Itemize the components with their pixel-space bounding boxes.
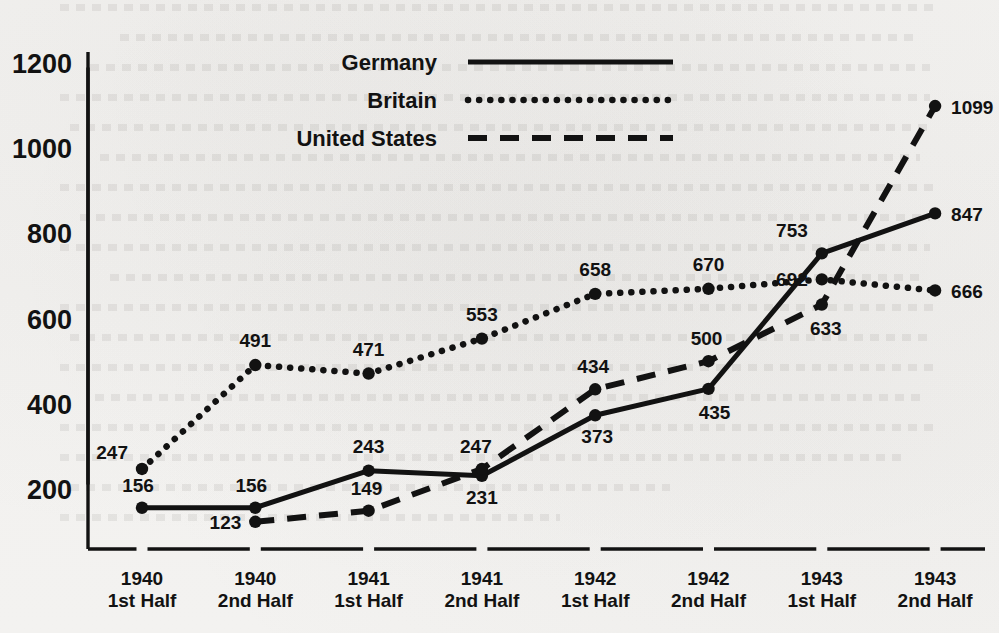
x-axis-tick-label: 19431st Half [787,568,856,611]
data-point [362,367,374,379]
data-point [702,383,714,395]
data-point [136,502,148,514]
data-point [929,207,941,219]
data-point-label: 753 [776,220,808,241]
svg-text:1942: 1942 [574,568,616,589]
data-point-label: 149 [351,478,383,499]
data-point-label: 231 [466,487,498,508]
x-axis-tick-label: 19421st Half [561,568,630,611]
data-point [476,332,488,344]
line-chart: 2004006008001000120019401st Half19402nd … [0,0,999,633]
data-point-label: 434 [577,356,609,377]
y-axis-tick-label: 1200 [12,49,72,79]
data-point-label: 156 [122,475,154,496]
data-point-label: 373 [581,426,613,447]
series-line [142,213,935,507]
x-axis-tick-label: 19402nd Half [218,568,294,611]
data-point [589,409,601,421]
data-point-label: 247 [460,436,492,457]
legend-label: Germany [342,50,438,75]
x-axis-tick-label: 19401st Half [108,568,177,611]
svg-text:1941: 1941 [461,568,504,589]
data-point [816,247,828,259]
svg-text:1942: 1942 [687,568,729,589]
data-point [589,383,601,395]
data-point [249,502,261,514]
data-point [929,284,941,296]
data-point-label: 156 [235,475,267,496]
series-britain: 247491471553658670692666 [96,254,983,475]
svg-text:2nd Half: 2nd Half [671,590,747,611]
data-point-label: 847 [951,204,983,225]
data-point [816,273,828,285]
svg-text:1st Half: 1st Half [334,590,403,611]
legend-label: Britain [367,88,437,113]
svg-text:1st Half: 1st Half [108,590,177,611]
data-point-label: 658 [579,259,611,280]
x-axis-tick-label: 19432nd Half [898,568,974,611]
svg-text:1943: 1943 [914,568,956,589]
svg-text:1941: 1941 [347,568,390,589]
y-axis-tick-label: 200 [27,475,72,505]
y-axis-tick-label: 800 [27,219,72,249]
series-line [255,106,935,522]
data-point-label: 670 [693,254,725,275]
legend-label: United States [296,126,437,151]
data-point-label: 666 [951,281,983,302]
svg-text:1st Half: 1st Half [787,590,856,611]
data-point [589,288,601,300]
data-point-label: 500 [691,328,723,349]
data-point [816,298,828,310]
data-point-label: 435 [699,402,731,423]
data-point [249,516,261,528]
data-point [702,355,714,367]
data-point-label: 553 [466,304,498,325]
svg-text:1943: 1943 [801,568,843,589]
y-axis-tick-label: 1000 [12,134,72,164]
data-point-label: 692 [776,269,808,290]
legend-item-united-states[interactable]: United States [296,126,673,151]
x-axis-tick-label: 19411st Half [334,568,403,611]
series-united-states: 1231492474345006331099 [210,97,994,533]
data-point-label: 123 [210,512,242,533]
data-point-label: 243 [353,436,385,457]
svg-text:1st Half: 1st Half [561,590,630,611]
legend-item-germany[interactable]: Germany [342,50,673,75]
y-axis-tick-label: 600 [27,305,72,335]
svg-text:2nd Half: 2nd Half [218,590,294,611]
x-axis-tick-label: 19422nd Half [671,568,747,611]
svg-text:2nd Half: 2nd Half [898,590,974,611]
data-point-label: 471 [353,339,385,360]
svg-text:1940: 1940 [234,568,276,589]
svg-text:1940: 1940 [121,568,163,589]
x-axis-tick-label: 19412nd Half [444,568,520,611]
data-point-label: 1099 [951,97,993,118]
legend-item-britain[interactable]: Britain [367,88,673,113]
data-point-label: 633 [810,318,842,339]
data-point [362,505,374,517]
data-point [476,463,488,475]
data-point [362,464,374,476]
data-point [702,283,714,295]
data-point [136,463,148,475]
svg-text:2nd Half: 2nd Half [444,590,520,611]
data-point-label: 491 [239,330,271,351]
data-point [249,359,261,371]
y-axis-tick-label: 400 [27,390,72,420]
data-point-label: 247 [96,442,128,463]
data-point [929,100,941,112]
